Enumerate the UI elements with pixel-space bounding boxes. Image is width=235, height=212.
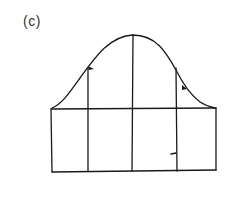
- bell-curve-diagram: [0, 0, 235, 212]
- arrowhead-icon: [88, 66, 94, 70]
- grid-left-edge: [51, 109, 52, 172]
- tick-mark: [171, 153, 176, 154]
- grid-top-line: [51, 108, 216, 109]
- right-vertical-line: [176, 68, 177, 171]
- center-vertical-line: [132, 35, 133, 171]
- grid-bottom-line: [52, 170, 216, 172]
